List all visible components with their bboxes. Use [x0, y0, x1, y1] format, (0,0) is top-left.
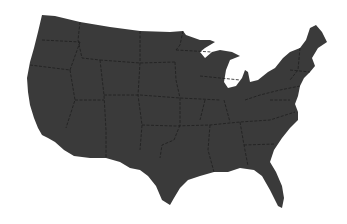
us-landmass [27, 15, 327, 208]
us-map [0, 0, 347, 224]
